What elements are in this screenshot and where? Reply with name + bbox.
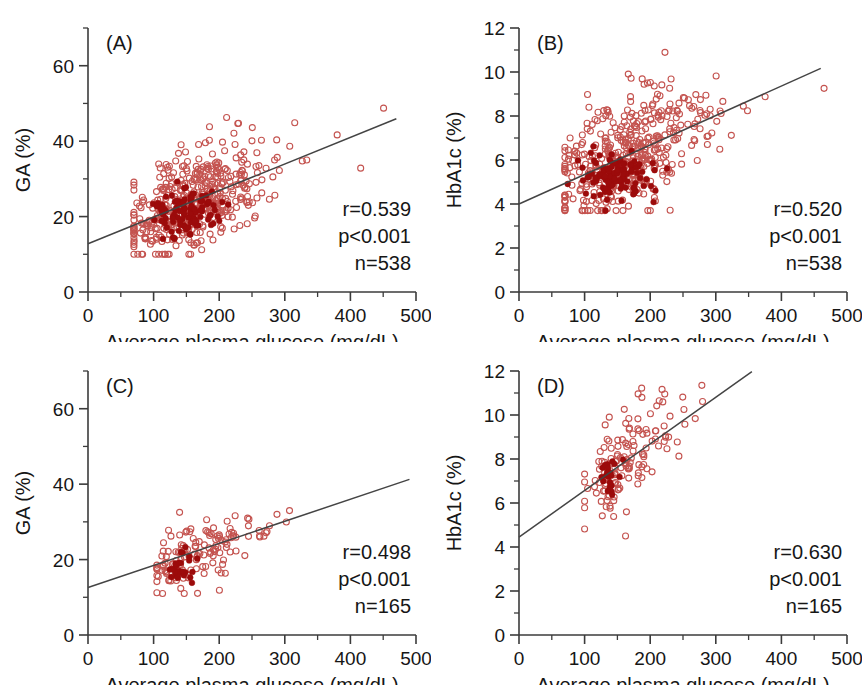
data-point-filled — [602, 173, 608, 179]
data-point-filled — [575, 157, 581, 163]
data-point-open — [156, 161, 162, 167]
data-point-open — [623, 533, 629, 539]
data-point-open — [720, 98, 726, 104]
data-point-filled — [170, 215, 176, 221]
data-point-filled — [189, 580, 195, 586]
data-point-open — [697, 126, 703, 132]
panel-c-plot: 02040600100200300400500(C)r=0.498p<0.001… — [0, 343, 431, 685]
stat-n: n=165 — [355, 595, 411, 617]
data-point-filled — [183, 184, 189, 190]
data-point-filled — [177, 222, 183, 228]
panel-a: 02040600100200300400500(A)r=0.539p<0.001… — [0, 0, 431, 342]
panel-letter: (C) — [106, 375, 134, 397]
y-tick-label: 20 — [53, 207, 74, 228]
data-point-filled — [215, 214, 221, 220]
data-point-filled — [583, 191, 589, 197]
x-axis-ticks: 0100200300400500 — [514, 292, 862, 326]
data-point-open — [611, 513, 617, 519]
y-tick-label: 10 — [484, 405, 505, 426]
data-point-filled — [605, 180, 611, 186]
panel-d-plot: 0246810120100200300400500(D)r=0.630p<0.0… — [431, 343, 862, 685]
data-point-open — [694, 157, 700, 163]
data-point-open — [287, 143, 293, 149]
stat-p: p<0.001 — [769, 225, 842, 247]
data-point-open — [660, 172, 666, 178]
data-point-open — [608, 129, 614, 135]
data-point-open — [579, 132, 585, 138]
data-point-open — [196, 156, 202, 162]
data-point-filled — [611, 461, 617, 467]
x-axis-title: Average plasma glucose (mg/dL) — [536, 331, 829, 342]
data-point-filled — [631, 185, 637, 191]
data-point-open — [697, 97, 703, 103]
data-point-open — [598, 498, 604, 504]
data-point-open — [232, 513, 238, 519]
x-tick-label: 400 — [766, 648, 798, 669]
data-point-open — [381, 105, 387, 111]
data-point-open — [249, 138, 255, 144]
data-point-open — [176, 150, 182, 156]
data-point-filled — [597, 152, 603, 158]
x-axis-ticks: 0100200300400500 — [83, 635, 431, 669]
panel-d: 0246810120100200300400500(D)r=0.630p<0.0… — [431, 343, 862, 685]
data-point-open — [138, 205, 144, 211]
y-tick-label: 0 — [494, 625, 505, 646]
data-point-filled — [609, 152, 615, 158]
data-point-filled — [634, 170, 640, 176]
panel-letter: (A) — [106, 32, 133, 54]
data-point-open — [639, 394, 645, 400]
data-point-open — [199, 184, 205, 190]
data-point-open — [668, 120, 674, 126]
data-point-filled — [192, 218, 198, 224]
x-tick-label: 300 — [269, 305, 301, 326]
data-point-open — [663, 159, 669, 165]
data-point-open — [668, 76, 674, 82]
data-point-open — [157, 165, 163, 171]
data-point-filled — [617, 474, 623, 480]
figure-root: 02040600100200300400500(A)r=0.539p<0.001… — [0, 0, 862, 685]
data-point-open — [707, 106, 713, 112]
data-point-open — [249, 125, 255, 131]
data-point-open — [662, 49, 668, 55]
x-axis-title: Average plasma glucose (mg/dL) — [105, 674, 398, 685]
x-tick-label: 100 — [569, 305, 601, 326]
data-point-open — [161, 540, 167, 546]
data-point-filled — [636, 161, 642, 167]
data-point-filled — [159, 218, 165, 224]
data-point-filled — [650, 160, 656, 166]
data-point-open — [699, 382, 705, 388]
stat-p: p<0.001 — [338, 568, 411, 590]
data-point-filled — [591, 143, 597, 149]
x-tick-label: 100 — [138, 305, 170, 326]
data-point-filled — [605, 488, 611, 494]
data-point-open — [358, 165, 364, 171]
data-point-filled — [194, 556, 200, 562]
data-point-filled — [163, 194, 169, 200]
data-point-open — [131, 251, 137, 257]
data-point-open — [635, 481, 641, 487]
data-point-filled — [604, 197, 610, 203]
data-point-filled — [206, 199, 212, 205]
data-point-filled — [160, 236, 166, 242]
data-point-filled — [652, 167, 658, 173]
stat-r: r=0.539 — [343, 198, 411, 220]
y-tick-label: 4 — [494, 537, 505, 558]
data-point-filled — [653, 188, 659, 194]
data-point-open — [703, 92, 709, 98]
data-point-open — [608, 445, 614, 451]
data-point-filled — [591, 193, 597, 199]
data-point-filled — [225, 202, 231, 208]
stats-annotation: r=0.539p<0.001n=538 — [338, 198, 411, 274]
data-point-filled — [597, 171, 603, 177]
data-point-open — [567, 135, 573, 141]
data-point-open — [745, 108, 751, 114]
data-point-open — [700, 399, 706, 405]
data-point-open — [204, 517, 210, 523]
data-point-open — [244, 161, 250, 167]
data-point-open — [201, 570, 207, 576]
data-point-filled — [651, 199, 657, 205]
data-point-open — [197, 229, 203, 235]
panel-b-plot: 0246810120100200300400500(B)r=0.520p<0.0… — [431, 0, 862, 342]
y-tick-label: 4 — [494, 194, 505, 215]
data-point-filled — [187, 575, 193, 581]
